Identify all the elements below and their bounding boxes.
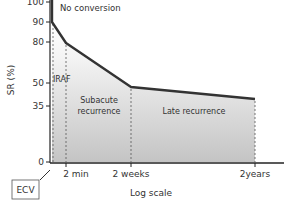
- ytick-35: 35: [33, 101, 44, 111]
- ecv-pointer-line: [40, 170, 50, 180]
- xtick-2weeks: 2 weeks: [113, 169, 150, 179]
- ytick-0: 0: [38, 157, 44, 167]
- ytick-80: 80: [33, 37, 45, 47]
- subacute-label-line1: Subacute: [80, 96, 118, 105]
- ytick-50: 50: [33, 78, 45, 88]
- area-fill: [52, 22, 255, 162]
- ytick-90: 90: [33, 17, 45, 27]
- late-recurrence-label: Late recurrence: [162, 107, 225, 116]
- ecv-label: ECV: [16, 185, 35, 195]
- xtick-2min: 2 min: [63, 169, 89, 179]
- chart: 100 90 80 50 35 0 SR (%) 2 min 2 weeks 2…: [0, 0, 288, 207]
- xtick-2years: 2years: [240, 169, 271, 179]
- subacute-label-line2: recurrence: [77, 107, 120, 116]
- y-axis-title: SR (%): [6, 65, 16, 95]
- x-axis-title: Log scale: [130, 188, 173, 198]
- iraf-label: IRAF: [53, 75, 71, 84]
- ytick-100: 100: [27, 0, 44, 7]
- no-conversion-label: No conversion: [60, 3, 121, 13]
